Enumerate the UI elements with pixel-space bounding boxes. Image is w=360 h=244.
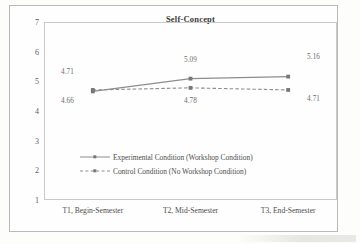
legend-swatch [80, 152, 110, 162]
data-point-marker [91, 88, 95, 92]
y-axis-tick: 5 [20, 77, 39, 86]
y-axis-tick: 1 [20, 196, 39, 205]
data-point-label: 4.71 [307, 95, 320, 103]
x-axis: T1, Begin-SemesterT2, Mid-SemesterT3, En… [44, 206, 337, 220]
x-axis-tick: T2, Mid-Semester [142, 206, 240, 220]
data-point-label: 5.09 [184, 56, 197, 64]
data-point-marker [189, 77, 193, 81]
data-point-label: 4.78 [184, 97, 197, 105]
scan-artifact [236, 235, 356, 242]
y-axis-tick: 3 [20, 136, 39, 145]
data-point-marker [189, 86, 193, 90]
x-axis-tick: T1, Begin-Semester [44, 206, 142, 220]
y-axis-tick: 4 [20, 107, 39, 116]
data-point-marker [286, 75, 290, 79]
legend-item: Control Condition (No Workshop Condition… [80, 164, 310, 178]
legend: Experimental Condition (Workshop Conditi… [80, 150, 310, 178]
x-axis-tick: T3, End-Semester [239, 206, 337, 220]
legend-marker-icon [93, 169, 96, 172]
legend-item: Experimental Condition (Workshop Conditi… [80, 150, 310, 164]
data-point-label: 5.16 [307, 53, 320, 61]
data-point-marker [286, 88, 290, 92]
line-chart: Self-Concept 7654321 4.714.665.094.785.1… [0, 0, 360, 244]
y-axis-tick: 2 [20, 166, 39, 175]
legend-label: Control Condition (No Workshop Condition… [113, 167, 246, 176]
legend-swatch [80, 166, 110, 176]
legend-marker-icon [93, 155, 96, 158]
data-point-label: 4.71 [61, 68, 74, 76]
data-point-label: 4.66 [61, 97, 74, 105]
legend-label: Experimental Condition (Workshop Conditi… [113, 153, 253, 162]
y-axis-tick: 7 [20, 18, 39, 27]
y-axis-tick: 6 [20, 47, 39, 56]
